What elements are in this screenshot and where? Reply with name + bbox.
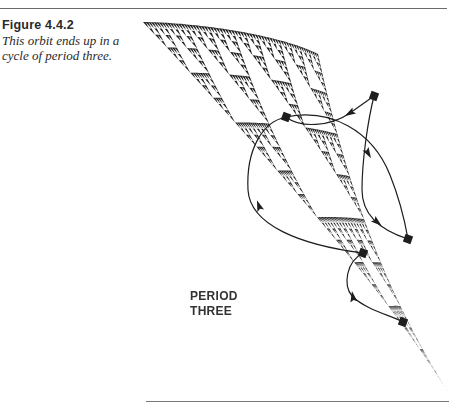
orbit-diagram	[0, 0, 472, 415]
orbit-point-E	[398, 317, 408, 327]
bottom-rule	[146, 401, 449, 402]
orbit-point-B	[369, 91, 379, 101]
orbit-path-D-to-E	[347, 253, 403, 322]
orbit-point-A	[281, 112, 291, 122]
arrowhead-icon	[343, 107, 356, 119]
orbit-path-B-to-A	[286, 96, 374, 124]
period-three-label: PERIOD THREE	[190, 289, 238, 319]
period-label-line-1: PERIOD	[190, 289, 238, 304]
orbit-path-B-to-C	[362, 96, 408, 239]
orbit-point-D	[358, 248, 368, 258]
orbit-point-C	[403, 234, 413, 244]
fractal-figure: PERIOD THREE	[0, 0, 472, 415]
orbit-path-A-to-C	[286, 115, 408, 239]
orbit-path-A-to-D	[248, 117, 363, 253]
period-label-line-2: THREE	[190, 304, 238, 319]
